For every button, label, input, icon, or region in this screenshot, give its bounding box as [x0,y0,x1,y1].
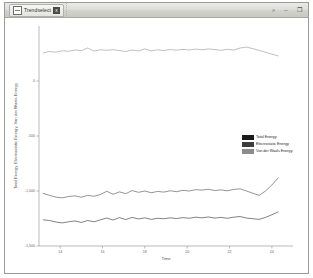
svg-text:-1,500: -1,500 [25,244,35,248]
legend-item[interactable]: Van der Waals Energy [242,148,300,155]
maximize-icon[interactable]: ❐ [295,6,303,14]
chart-icon [13,6,22,15]
svg-text:16: 16 [101,250,105,254]
svg-text:18: 18 [143,250,147,254]
window-controls: ⌕ – ❐ [269,6,303,14]
legend-label: Electrostatic Energy [256,142,289,147]
chart-legend: Total EnergyElectrostatic EnergyVan der … [242,134,300,155]
legend-swatch [242,135,254,140]
legend-label: Total Energy [256,135,277,140]
svg-text:-500: -500 [28,134,35,138]
window-tab-label: Trendselect [24,7,51,14]
svg-text:14: 14 [58,250,62,254]
svg-text:Total Energy, Electrostatic En: Total Energy, Electrostatic Energy, Van … [13,82,18,189]
legend-item[interactable]: Electrostatic Energy [242,141,300,148]
window-title-bar: Trendselect x ⌕ – ❐ [5,3,308,18]
close-icon[interactable]: x [53,7,60,14]
window-tab[interactable]: Trendselect x [9,4,64,17]
minimize-icon[interactable]: – [282,6,290,14]
plot-window: Trendselect x ⌕ – ❐ 0-500-1,000-1,500141… [4,2,309,274]
svg-text:0: 0 [33,79,35,83]
legend-label: Van der Waals Energy [256,149,292,154]
plot-surface: 0-500-1,000-1,500141618202224TimeTotal E… [5,18,308,273]
svg-text:-1,000: -1,000 [25,189,35,193]
legend-item[interactable]: Total Energy [242,134,300,141]
svg-text:20: 20 [185,250,189,254]
search-icon[interactable]: ⌕ [269,6,277,14]
legend-swatch [242,149,254,154]
svg-text:Time: Time [161,256,171,261]
svg-text:22: 22 [228,250,232,254]
tab-strip-empty-area [66,3,269,18]
svg-text:24: 24 [270,250,274,254]
legend-swatch [242,142,254,147]
